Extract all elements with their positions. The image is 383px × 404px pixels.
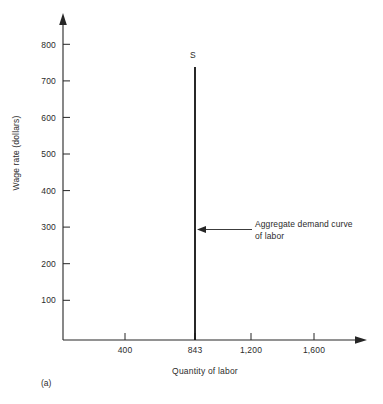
x-tick-label-1200: 1,200 bbox=[231, 345, 271, 355]
annotation-left-arrow-icon bbox=[197, 226, 206, 233]
x-axis-right-arrow-icon bbox=[355, 336, 367, 343]
y-axis-up-arrow-icon bbox=[59, 13, 67, 25]
panel-label: (a) bbox=[41, 378, 51, 388]
y-tick-label-500: 500 bbox=[26, 149, 56, 159]
y-axis-title: Wage rate (dollars) bbox=[11, 93, 21, 213]
x-tick-label-400: 400 bbox=[105, 345, 145, 355]
supply-curve-label: S bbox=[190, 50, 196, 60]
x-tick-label-1600: 1,600 bbox=[294, 345, 334, 355]
y-tick-label-300: 300 bbox=[26, 222, 56, 232]
y-tick-label-200: 200 bbox=[26, 259, 56, 269]
x-tick-label-843: 843 bbox=[175, 345, 215, 355]
y-tick-label-600: 600 bbox=[26, 113, 56, 123]
y-axis-ticks bbox=[63, 44, 70, 300]
annotation-line-1: Aggregate demand curve bbox=[255, 219, 380, 231]
y-tick-label-100: 100 bbox=[26, 295, 56, 305]
aggregate-demand-annotation-text: Aggregate demand curve of labor bbox=[255, 219, 380, 242]
y-tick-label-400: 400 bbox=[26, 186, 56, 196]
annotation-line-2: of labor bbox=[255, 231, 380, 243]
x-axis-title: Quantity of labor bbox=[135, 366, 275, 376]
y-tick-label-800: 800 bbox=[26, 40, 56, 50]
chart-plot-area bbox=[0, 0, 383, 404]
y-tick-label-700: 700 bbox=[26, 76, 56, 86]
figure-container: 100 200 300 400 500 600 700 800 400 843 … bbox=[0, 0, 383, 404]
x-axis-ticks bbox=[125, 333, 314, 340]
